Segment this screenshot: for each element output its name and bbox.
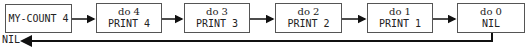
node-line2: NIL: [482, 18, 500, 30]
node-line1: do 4: [118, 6, 140, 18]
arrows-layer: [0, 0, 532, 48]
return-arrow: [22, 33, 492, 41]
node-do-2: do 2 PRINT 2: [275, 3, 342, 33]
node-line2: PRINT 3: [196, 18, 238, 30]
node-do-4: do 4 PRINT 4: [96, 3, 162, 33]
node-line1: do 0: [480, 6, 502, 18]
node-line2: PRINT 4: [108, 18, 150, 30]
node-line1: do 1: [389, 6, 411, 18]
node-line2: PRINT 1: [379, 18, 421, 30]
node-line1: do 2: [298, 6, 320, 18]
node-do-1: do 1 PRINT 1: [367, 3, 433, 33]
node-do-0: do 0 NIL: [457, 3, 525, 33]
return-value-label: NIL: [2, 34, 20, 45]
node-do-3: do 3 PRINT 3: [184, 3, 250, 33]
node-label: MY-COUNT 4: [8, 13, 68, 24]
node-line1: do 3: [206, 6, 228, 18]
node-my-count: MY-COUNT 4: [5, 4, 72, 33]
node-line2: PRINT 2: [287, 18, 329, 30]
